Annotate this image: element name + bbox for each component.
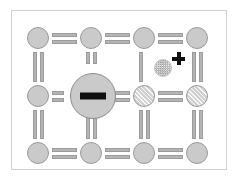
- vertical-bond: [139, 110, 150, 139]
- vertical-bond: [86, 52, 97, 64]
- horizontal-bond: [52, 91, 64, 102]
- negative-ion[interactable]: [70, 73, 116, 119]
- lattice-atom[interactable]: [27, 27, 49, 49]
- lattice-atom[interactable]: [133, 85, 155, 107]
- lattice-atom[interactable]: [133, 142, 155, 164]
- vertical-bond: [33, 52, 44, 82]
- lattice-atom[interactable]: [80, 27, 102, 49]
- horizontal-bond: [105, 33, 130, 44]
- horizontal-bond: [105, 148, 130, 159]
- lattice-defect-figure: Crystal lattice with point defects: [0, 0, 239, 181]
- vertical-bond: [192, 52, 203, 82]
- interstitial-particle[interactable]: [154, 59, 172, 77]
- vertical-bond: [33, 110, 44, 139]
- vertical-bond: [139, 52, 150, 82]
- minus-sign-icon: [80, 93, 106, 100]
- vertical-bond: [192, 110, 203, 139]
- horizontal-bond: [158, 148, 183, 159]
- lattice-atom[interactable]: [186, 142, 208, 164]
- lattice-atom[interactable]: [133, 27, 155, 49]
- horizontal-bond: [52, 33, 77, 44]
- horizontal-bond: [158, 91, 183, 102]
- horizontal-bond: [158, 33, 183, 44]
- lattice-atom[interactable]: [80, 142, 102, 164]
- lattice-atom[interactable]: [27, 85, 49, 107]
- lattice-atom[interactable]: [186, 85, 208, 107]
- plus-sign-icon: [172, 52, 185, 65]
- lattice-atom[interactable]: [27, 142, 49, 164]
- lattice-atom[interactable]: [186, 27, 208, 49]
- figure-title: Crystal lattice with point defects: [0, 0, 1, 1]
- horizontal-bond: [52, 148, 77, 159]
